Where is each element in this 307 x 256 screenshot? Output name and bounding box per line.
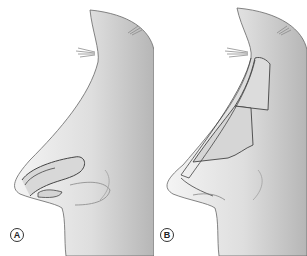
panel-a: A <box>0 0 154 256</box>
nose-profile-a-illustration <box>0 0 154 256</box>
eyelash-icon <box>225 48 248 57</box>
panel-label-a: A <box>10 228 24 242</box>
nose-profile-b-illustration <box>153 0 307 256</box>
face-profile-shape <box>15 10 154 256</box>
eyelash-icon <box>76 48 95 57</box>
panel-label-b: B <box>160 228 174 242</box>
panel-b: B <box>153 0 307 256</box>
